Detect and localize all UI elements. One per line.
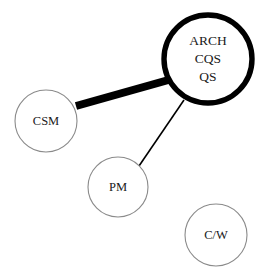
edge-pm-arch[interactable]: [139, 100, 184, 166]
node-csm-label: CSM: [33, 114, 59, 128]
node-csm[interactable]: CSM: [15, 90, 77, 152]
node-label-line: ARCH: [189, 33, 227, 48]
node-pm-label: PM: [109, 180, 127, 194]
node-pm[interactable]: PM: [88, 157, 148, 217]
node-cw[interactable]: C/W: [185, 204, 247, 266]
edge-csm-arch[interactable]: [76, 79, 172, 106]
node-label-line: CQS: [195, 51, 221, 66]
node-arch-cqs-qs[interactable]: ARCHCQSQS: [164, 15, 252, 103]
network-diagram-canvas: CSM PM C/W ARCHCQSQS: [0, 0, 266, 273]
node-layer: CSM PM C/W ARCHCQSQS: [15, 15, 252, 266]
node-label-line: QS: [199, 69, 216, 84]
node-cw-label: C/W: [204, 228, 228, 242]
edge-layer: [76, 79, 184, 166]
network-graph: CSM PM C/W ARCHCQSQS: [0, 0, 266, 273]
